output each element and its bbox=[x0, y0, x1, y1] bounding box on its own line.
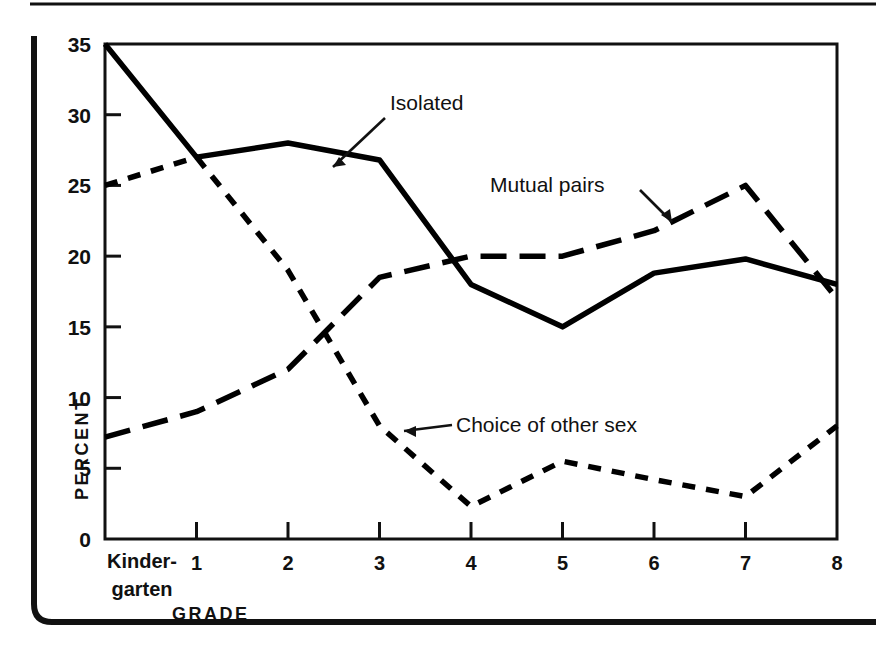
series-lines bbox=[105, 44, 837, 506]
line-chart: 05101520253035 12345678 Kinder- garten P… bbox=[0, 0, 877, 656]
x-axis-tick-label: 4 bbox=[465, 552, 477, 574]
series-line-isolated bbox=[105, 44, 837, 327]
x-axis-tick-label: 3 bbox=[374, 552, 385, 574]
x-axis-ticks bbox=[197, 522, 746, 539]
xtick-label-kindergarten-line2: garten bbox=[111, 578, 172, 600]
series-line-mutual-pairs bbox=[105, 185, 837, 437]
xtick-label-kindergarten-line1: Kinder- bbox=[107, 550, 177, 572]
y-axis-tick-label: 30 bbox=[68, 104, 91, 127]
series-label-mutual-pairs: Mutual pairs bbox=[490, 173, 604, 196]
y-axis-tick-label: 20 bbox=[68, 245, 91, 268]
y-axis-tick-label: 0 bbox=[79, 528, 91, 551]
plot-frame bbox=[105, 44, 837, 539]
x-axis-tick-label: 2 bbox=[282, 552, 293, 574]
x-axis-title: GRADE bbox=[172, 604, 250, 624]
x-axis-tick-labels: 12345678 bbox=[191, 552, 843, 574]
x-axis-tick-label: 1 bbox=[191, 552, 202, 574]
series-label-choice-of-other-sex: Choice of other sex bbox=[456, 413, 637, 436]
y-axis-ticks bbox=[105, 115, 121, 469]
y-axis-title: PERCENT bbox=[72, 396, 92, 500]
y-axis-tick-label: 35 bbox=[68, 33, 92, 56]
figure-container: 05101520253035 12345678 Kinder- garten P… bbox=[0, 0, 877, 656]
x-axis-tick-label: 5 bbox=[557, 552, 568, 574]
series-line-choice-of-other-sex bbox=[105, 157, 837, 506]
series-label-isolated: Isolated bbox=[390, 91, 464, 114]
y-axis-tick-label: 25 bbox=[68, 174, 92, 197]
x-axis-tick-label: 7 bbox=[740, 552, 751, 574]
x-axis-tick-label: 8 bbox=[831, 552, 842, 574]
y-axis-tick-label: 15 bbox=[68, 316, 92, 339]
x-axis-tick-label: 6 bbox=[648, 552, 659, 574]
